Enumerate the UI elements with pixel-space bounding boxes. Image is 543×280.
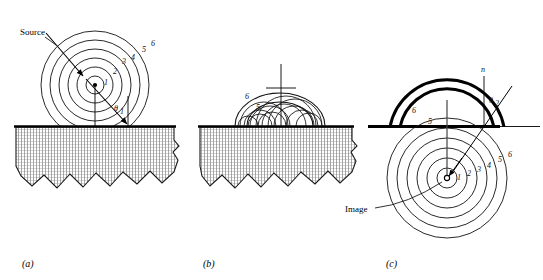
medium-body-b	[200, 127, 357, 188]
figure-huygens-reflection: Source θ 1 1 2 3 4 5 6	[0, 0, 543, 280]
wavefront-number-c-3: 3	[476, 165, 481, 174]
wavefront-number-c-2: 2	[467, 169, 471, 178]
caption-panel-b: (b)	[203, 258, 215, 269]
angle-theta-sub-a: 1	[120, 107, 124, 116]
image-point-c	[444, 175, 449, 180]
wavefront-number-c-6: 6	[508, 150, 512, 159]
normal-label-c: n	[481, 65, 485, 74]
figure-canvas: Source θ 1 1 2 3 4 5 6	[0, 0, 543, 280]
wavelet-number-b-5: 5	[256, 103, 260, 112]
angle-theta-sub-c: 2	[495, 99, 499, 108]
reflected-arc-number-c-6: 6	[412, 106, 416, 115]
wavefront-number-c-5: 5	[498, 155, 502, 164]
panel-b: 6 5	[198, 64, 357, 188]
wavefront-number-c-4: 4	[487, 161, 491, 170]
wavefront-number-a-2: 2	[113, 67, 117, 76]
wavefront-number-a-1: 1	[104, 78, 108, 87]
caption-panel-a: (a)	[22, 258, 34, 269]
source-label-a: Source	[20, 27, 45, 37]
wavefront-number-a-5: 5	[142, 45, 146, 54]
panel-c: n θ 2 Image 1 2 3 4 5 6 6 5	[345, 65, 540, 238]
panel-a: Source θ 1 1 2 3 4 5 6	[14, 27, 179, 188]
panel-a-medium	[14, 127, 179, 189]
wavelet-number-b-6: 6	[245, 92, 249, 101]
wavefront-number-c-1: 1	[457, 173, 461, 182]
panel-b-medium	[198, 127, 357, 189]
wavefront-number-a-4: 4	[131, 53, 135, 62]
image-label-c: Image	[345, 204, 368, 214]
wavefront-number-a-6: 6	[151, 39, 155, 48]
angle-theta-c: θ	[489, 96, 493, 105]
caption-panel-c: (c)	[386, 258, 397, 269]
reflected-arc-number-c-5: 5	[428, 117, 432, 126]
medium-body-a	[16, 127, 179, 188]
incident-ray-a	[46, 33, 83, 76]
angle-theta-a: θ	[114, 104, 118, 113]
wavefront-number-a-3: 3	[121, 57, 126, 66]
